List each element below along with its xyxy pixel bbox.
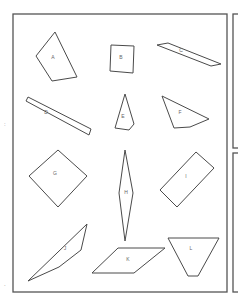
rectangle-outline <box>26 97 91 135</box>
shape-j: J <box>28 224 87 281</box>
quadrilateral-outline <box>36 32 77 81</box>
shape-label: C <box>179 47 183 53</box>
shape-f: F <box>162 96 209 128</box>
shape-label: I <box>185 173 186 179</box>
shape-label: L <box>190 245 193 251</box>
shape-i: I <box>160 152 214 207</box>
quadrilateral-outline <box>162 96 209 128</box>
shapes-diagram: :. ABCDEFGHIJKL <box>0 0 238 302</box>
shape-g: G <box>29 150 87 207</box>
parallelogram-outline <box>157 43 221 66</box>
side-mark: : <box>4 121 6 127</box>
kite-outline <box>115 94 134 130</box>
shape-label: H <box>124 189 128 195</box>
shape-k: K <box>92 248 165 273</box>
rectangle-outline <box>160 152 214 207</box>
shape-label: G <box>53 170 57 176</box>
shape-a: A <box>36 32 77 81</box>
shape-label: D <box>44 109 48 115</box>
shape-e: E <box>115 94 134 130</box>
shape-h: H <box>119 150 133 241</box>
side-panel-top <box>233 14 238 148</box>
trapezoid-outline <box>168 238 219 276</box>
shape-c: C <box>157 43 221 66</box>
triangle-outline <box>28 224 87 281</box>
square-outline <box>29 150 87 207</box>
side-panel-bottom <box>233 153 238 292</box>
shape-d: D <box>26 97 91 135</box>
side-mark: . <box>4 281 6 287</box>
shape-b: B <box>110 45 134 73</box>
shape-label: F <box>178 109 181 115</box>
rhombus-outline <box>119 150 133 241</box>
shape-l: L <box>168 238 219 276</box>
